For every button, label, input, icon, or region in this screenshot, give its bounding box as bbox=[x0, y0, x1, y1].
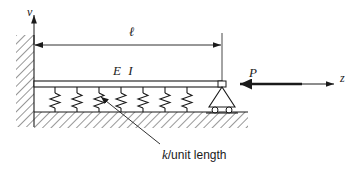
ground-hatching bbox=[34, 112, 248, 128]
spring bbox=[160, 87, 170, 112]
beam bbox=[34, 81, 222, 87]
length-dimension-line bbox=[35, 33, 222, 86]
length-dimension-label: ℓ bbox=[129, 25, 134, 38]
fixed-wall bbox=[16, 35, 34, 127]
axial-load-label: P bbox=[249, 66, 257, 79]
beam-stiffness-label: E I bbox=[113, 64, 135, 77]
spring bbox=[94, 87, 104, 112]
figure-canvas: v z ℓ E I P k/unit length bbox=[0, 0, 361, 173]
spring bbox=[116, 87, 126, 112]
z-axis-label: z bbox=[340, 72, 345, 84]
spring bbox=[50, 87, 60, 112]
v-axis-label: v bbox=[27, 6, 32, 18]
spring bbox=[182, 87, 192, 112]
spring bbox=[138, 87, 148, 112]
spring bbox=[72, 87, 82, 112]
foundation-springs bbox=[50, 87, 192, 112]
foundation-modulus-caption: k/unit length bbox=[162, 148, 227, 161]
foundation-modulus-units: /unit length bbox=[168, 148, 227, 162]
